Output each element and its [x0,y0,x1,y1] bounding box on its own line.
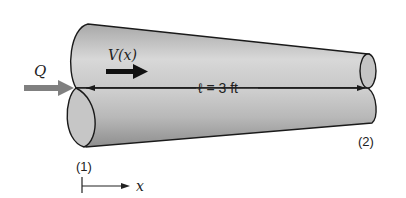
section-1-label: (1) [76,159,92,174]
flow-arrow-icon [24,80,74,96]
x-axis-arrow-icon [82,177,130,193]
flow-rate-label: Q [34,62,46,80]
velocity-label: V(x) [108,47,137,63]
outlet-end-face [360,54,376,88]
pipe-lower-body [76,88,376,147]
tapered-pipe-diagram: Q V(x) ℓ = 3 ft (1) (2) x [0,0,406,198]
section-2-label: (2) [358,134,374,149]
x-axis-label: x [136,178,144,194]
length-label: ℓ = 3 ft [198,80,238,96]
